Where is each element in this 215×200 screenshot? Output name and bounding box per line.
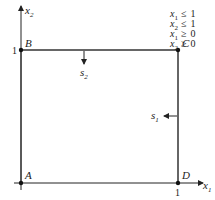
s1-label: s1 <box>151 109 159 124</box>
x1-tick-one: 1 <box>175 187 180 198</box>
vertex-a-point <box>19 181 23 185</box>
x2-axis-label: x2 <box>24 4 34 19</box>
vertex-b-point <box>19 48 23 52</box>
vertex-b-label: B <box>25 37 32 49</box>
vertex-d-point <box>176 181 180 185</box>
x2-tick-one: 1 <box>12 45 17 56</box>
feasible-region-diagram: A B C D 1 1 x2 x1 s2 s1 x1≤1 x2≤1 x1≥0 x… <box>0 0 215 200</box>
x1-axis-label: x1 <box>202 179 211 194</box>
vertex-d-label: D <box>181 169 190 181</box>
s2-label: s2 <box>80 66 88 81</box>
vertex-a-label: A <box>24 169 32 181</box>
constraints-list: x1≤1 x2≤1 x1≥0 x2≥0 <box>169 8 195 52</box>
